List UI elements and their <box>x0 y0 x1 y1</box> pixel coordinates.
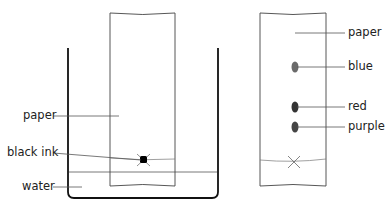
label-blue: blue <box>348 61 373 73</box>
label-paper-right: paper <box>348 27 381 39</box>
label-paper-left: paper <box>23 110 56 122</box>
black-ink-spot <box>140 156 147 163</box>
label-red: red <box>348 101 367 113</box>
leader-black-ink <box>53 153 141 160</box>
label-purple: purple <box>348 121 385 133</box>
label-black-ink: black ink <box>7 147 58 159</box>
label-water: water <box>22 181 55 193</box>
beaker <box>68 48 218 198</box>
